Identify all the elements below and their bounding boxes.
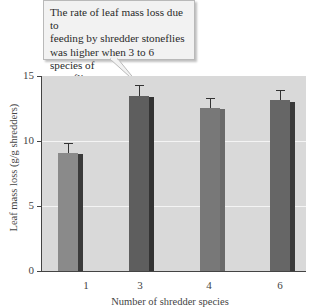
callout-line-2: feeding by shredder stoneflies [50, 32, 188, 45]
ytick-5 [37, 206, 42, 207]
xtick-label-3: 3 [130, 279, 150, 291]
error-bar-6 [280, 90, 281, 100]
error-cap-6 [276, 90, 285, 91]
xtick-label-1: 1 [76, 279, 96, 291]
xtick-label-4: 4 [199, 279, 219, 291]
error-bar-3 [139, 85, 140, 96]
bar-6 [270, 100, 290, 271]
annotation-callout: The rate of leaf mass loss due to feedin… [43, 0, 195, 60]
bar-1-side [78, 154, 83, 271]
x-axis-title: Number of shredder species [90, 296, 250, 307]
bar-6-side [290, 102, 295, 271]
ytick-label-15: 15 [14, 69, 34, 81]
xtick-label-6: 6 [270, 279, 290, 291]
bar-4 [200, 108, 220, 271]
callout-line-1: The rate of leaf mass loss due to [50, 6, 188, 32]
bar-3-side [149, 97, 154, 271]
error-cap-1 [64, 143, 73, 144]
x-axis [37, 271, 306, 272]
ytick-10 [37, 141, 42, 142]
error-bar-4 [210, 98, 211, 108]
bar-3 [129, 96, 149, 271]
bar-4-side [220, 109, 225, 271]
ytick-15 [37, 76, 42, 77]
y-axis-title: Leaf mass loss (g/g shredders) [8, 112, 19, 232]
ytick-0 [37, 271, 42, 272]
bar-1 [58, 153, 78, 271]
callout-line-3: was higher when 3 to 6 species of [50, 46, 188, 72]
error-cap-4 [206, 98, 215, 99]
y-axis [41, 76, 42, 272]
error-cap-3 [135, 85, 144, 86]
error-bar-1 [68, 143, 69, 153]
ytick-label-0: 0 [14, 264, 34, 276]
gridline-10 [42, 141, 306, 142]
